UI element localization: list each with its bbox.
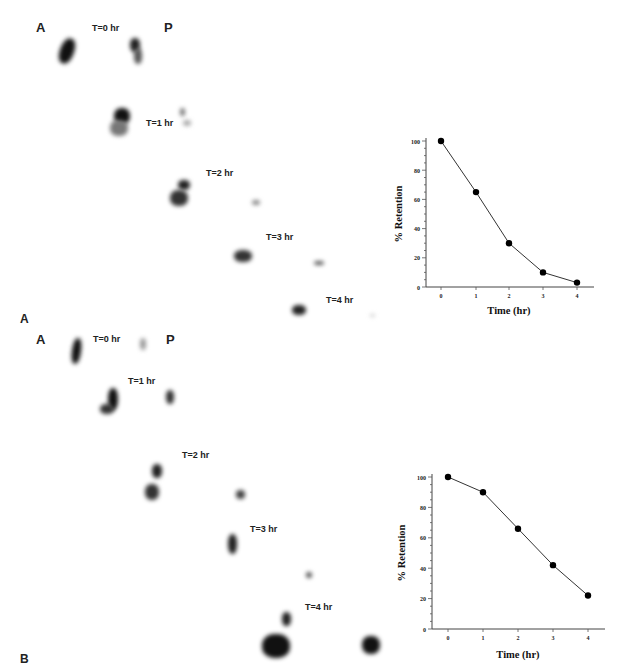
data-point-marker (480, 489, 486, 495)
chart-a-plot: 02040608010001234Time (hr)% Retention (393, 138, 594, 317)
x-tick-label: 0 (447, 635, 450, 641)
data-line (448, 477, 588, 596)
x-tick-label: 3 (542, 293, 545, 299)
data-point-marker (550, 562, 556, 568)
chart-a: 02040608010001234Time (hr)% Retention 02… (0, 0, 625, 668)
y-axis-title: % Retention (393, 185, 404, 242)
x-tick-label: 4 (576, 293, 579, 299)
data-point-marker (574, 279, 580, 285)
y-tick-label: 80 (414, 168, 420, 174)
y-tick-label: 20 (420, 596, 426, 602)
y-tick-label: 20 (414, 255, 420, 261)
data-line (441, 141, 577, 283)
data-point-marker (540, 269, 546, 275)
x-tick-label: 3 (552, 635, 555, 641)
x-tick-label: 1 (475, 293, 478, 299)
y-tick-label: 100 (417, 475, 426, 481)
y-tick-label: 80 (420, 505, 426, 511)
y-tick-label: 0 (423, 627, 426, 633)
x-axis-title: Time (hr) (487, 305, 531, 317)
x-axis-title: Time (hr) (496, 649, 540, 661)
data-point-marker (585, 592, 591, 598)
x-tick-label: 0 (440, 293, 443, 299)
data-point-marker (473, 189, 479, 195)
y-tick-label: 40 (420, 566, 426, 572)
y-tick-label: 60 (414, 197, 420, 203)
x-tick-label: 1 (482, 635, 485, 641)
data-point-marker (438, 138, 444, 144)
x-tick-label: 2 (517, 635, 520, 641)
y-axis-title: % Retention (396, 524, 407, 581)
data-point-marker (506, 240, 512, 246)
data-point-marker (515, 525, 521, 531)
x-tick-label: 2 (508, 293, 511, 299)
y-tick-label: 40 (414, 226, 420, 232)
data-point-marker (445, 474, 451, 480)
x-tick-label: 4 (587, 635, 590, 641)
chart-b-plot: 02040608010001234Time (hr)% Retention (396, 474, 605, 661)
y-tick-label: 100 (411, 139, 420, 145)
y-tick-label: 60 (420, 535, 426, 541)
y-tick-label: 0 (417, 285, 420, 291)
